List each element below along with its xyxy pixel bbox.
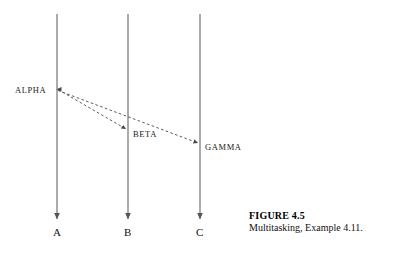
figure-container: ALPHA BETA GAMMA A B C FIGURE 4.5 Multit…	[0, 0, 400, 259]
message-alpha-to-beta	[58, 90, 126, 130]
message-label-beta: BETA	[133, 130, 157, 139]
lifeline-label-a: A	[53, 227, 61, 238]
lifeline-label-c: C	[196, 227, 203, 238]
figure-caption-text: Multitasking, Example 4.11.	[249, 222, 397, 234]
figure-caption: FIGURE 4.5 Multitasking, Example 4.11.	[249, 210, 397, 234]
figure-caption-title: FIGURE 4.5	[249, 210, 397, 222]
lifeline-label-b: B	[124, 227, 131, 238]
message-arrow-beta	[58, 90, 126, 130]
message-label-alpha: ALPHA	[15, 86, 46, 95]
message-label-gamma: GAMMA	[205, 143, 242, 152]
